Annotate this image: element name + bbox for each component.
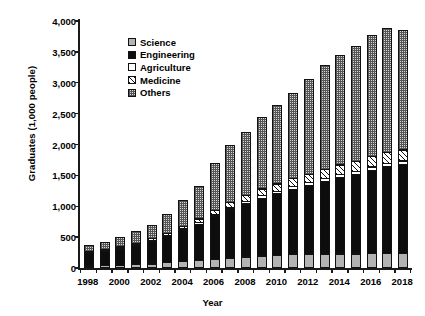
bar-segment-others bbox=[178, 200, 188, 226]
x-axis-tick-label: 2004 bbox=[172, 276, 193, 287]
bar-2000 bbox=[115, 235, 125, 268]
y-axis-tick-mark bbox=[75, 113, 80, 114]
x-axis-tick-label: 2018 bbox=[392, 276, 413, 287]
bar-segment-engineering bbox=[162, 236, 172, 263]
bar-segment-science bbox=[351, 254, 361, 269]
bar-2011 bbox=[288, 90, 298, 268]
bar-segment-science bbox=[162, 262, 172, 268]
bar-segment-engineering bbox=[115, 249, 125, 266]
bar-segment-engineering bbox=[210, 216, 220, 259]
x-axis-tick-mark bbox=[96, 268, 97, 273]
bar-segment-engineering bbox=[304, 185, 314, 255]
bar-segment-engineering bbox=[147, 241, 157, 264]
bar-segment-others bbox=[288, 93, 298, 179]
y-axis-tick-label: 1,000 bbox=[32, 201, 76, 212]
legend-swatch-diagonal-hatch-icon bbox=[128, 76, 136, 84]
legend-swatch-dotted-gray-icon bbox=[128, 38, 136, 46]
y-axis-tick-mark bbox=[75, 236, 80, 237]
x-axis-tick-label: 2008 bbox=[234, 276, 255, 287]
x-axis-tick-label: 2014 bbox=[329, 276, 350, 287]
bar-segment-engineering bbox=[320, 181, 330, 254]
chart-legend: ScienceEngineeringAgricultureMedicineOth… bbox=[128, 36, 195, 99]
bar-segment-science bbox=[225, 258, 235, 268]
bar-segment-others bbox=[210, 163, 220, 211]
bar-segment-science bbox=[241, 257, 251, 268]
x-axis-tick-mark bbox=[237, 268, 238, 273]
bar-segment-science bbox=[194, 260, 204, 268]
y-axis-tick-label: 0 bbox=[32, 263, 76, 274]
bar-segment-engineering bbox=[351, 174, 361, 254]
bar-2017 bbox=[382, 25, 392, 268]
bar-segment-others bbox=[162, 214, 172, 233]
bar-segment-engineering bbox=[225, 210, 235, 259]
bar-2009 bbox=[257, 114, 267, 268]
x-axis-tick-label: 1998 bbox=[77, 276, 98, 287]
x-axis-tick-mark bbox=[221, 268, 222, 273]
y-axis-tick-label: 3,500 bbox=[32, 46, 76, 57]
x-axis-tick-mark bbox=[300, 268, 301, 273]
x-axis-tick-mark bbox=[394, 268, 395, 273]
legend-item-medicine[interactable]: Medicine bbox=[128, 74, 195, 87]
x-axis-tick-label: 2000 bbox=[109, 276, 130, 287]
bar-segment-science bbox=[335, 254, 345, 269]
legend-item-agriculture[interactable]: Agriculture bbox=[128, 61, 195, 74]
bar-2001 bbox=[131, 228, 141, 268]
bar-2007 bbox=[225, 141, 235, 268]
x-axis-tick-label: 2002 bbox=[140, 276, 161, 287]
bar-segment-engineering bbox=[367, 170, 377, 254]
bar-2010 bbox=[272, 101, 282, 268]
x-axis-tick-mark bbox=[363, 268, 364, 273]
x-axis-tick-label: 2016 bbox=[360, 276, 381, 287]
y-axis-tick-label: 3,000 bbox=[32, 77, 76, 88]
bar-segment-engineering bbox=[398, 164, 408, 254]
x-axis-tick-mark bbox=[127, 268, 128, 273]
bar-segment-engineering bbox=[382, 166, 392, 254]
legend-swatch-cross-hatch-gray-icon bbox=[128, 89, 136, 97]
y-axis-tick-label: 500 bbox=[32, 232, 76, 243]
bar-2003 bbox=[162, 211, 172, 268]
stacked-bar-chart: Graduates (1,000 people) Year 05001,0001… bbox=[0, 0, 425, 316]
legend-label: Science bbox=[140, 37, 176, 48]
bar-segment-science bbox=[115, 265, 125, 268]
bar-segment-others bbox=[241, 132, 251, 196]
bar-2012 bbox=[304, 75, 314, 268]
bar-segment-others bbox=[147, 225, 157, 240]
bar-segment-others bbox=[320, 65, 330, 170]
bar-segment-science bbox=[257, 256, 267, 268]
bar-segment-science bbox=[178, 261, 188, 268]
bar-2015 bbox=[351, 43, 361, 268]
bar-segment-engineering bbox=[84, 253, 94, 266]
bar-segment-engineering bbox=[257, 198, 267, 257]
x-axis-tick-mark bbox=[347, 268, 348, 273]
bar-2004 bbox=[178, 197, 188, 268]
bar-segment-engineering bbox=[194, 224, 204, 261]
bar-segment-science bbox=[304, 254, 314, 268]
bar-segment-others bbox=[257, 117, 267, 190]
bar-segment-science bbox=[100, 265, 110, 268]
legend-item-science[interactable]: Science bbox=[128, 36, 195, 49]
bar-segment-science bbox=[382, 253, 392, 268]
legend-item-others[interactable]: Others bbox=[128, 86, 195, 99]
y-axis-tick-mark bbox=[75, 82, 80, 83]
bar-segment-others bbox=[304, 79, 314, 175]
bar-segment-engineering bbox=[241, 204, 251, 258]
bar-segment-engineering bbox=[272, 193, 282, 255]
bar-2006 bbox=[210, 160, 220, 268]
bar-1998 bbox=[84, 244, 94, 268]
bar-segment-engineering bbox=[288, 189, 298, 255]
x-axis-tick-mark bbox=[269, 268, 270, 273]
y-axis-tick-label: 2,500 bbox=[32, 108, 76, 119]
x-axis-tick-mark bbox=[159, 268, 160, 273]
bar-segment-others bbox=[367, 35, 377, 157]
bar-segment-science bbox=[131, 264, 141, 268]
bar-segment-others bbox=[225, 145, 235, 203]
x-axis-tick-mark bbox=[174, 268, 175, 273]
bar-2013 bbox=[320, 62, 330, 268]
y-axis-tick-mark bbox=[75, 20, 80, 21]
bar-segment-science bbox=[84, 266, 94, 268]
x-axis-tick-mark bbox=[143, 268, 144, 273]
bar-1999 bbox=[100, 240, 110, 268]
bar-segment-science bbox=[210, 259, 220, 268]
bar-segment-others bbox=[194, 186, 204, 219]
legend-item-engineering[interactable]: Engineering bbox=[128, 49, 195, 62]
